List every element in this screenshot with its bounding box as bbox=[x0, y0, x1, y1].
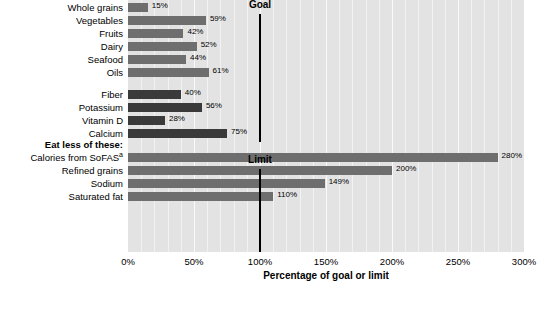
bar-row: 42% bbox=[128, 29, 524, 38]
category-label-calories-from-sofas: Calories from SoFASa bbox=[0, 152, 123, 163]
category-label-saturated-fat: Saturated fat bbox=[0, 191, 123, 202]
bar-dairy bbox=[128, 42, 197, 51]
reference-label-goal: Goal bbox=[249, 0, 271, 10]
bar-row: 110% bbox=[128, 192, 524, 201]
bar-whole-grains bbox=[128, 3, 148, 12]
bar-saturated-fat bbox=[128, 192, 273, 201]
bar-seafood bbox=[128, 55, 186, 64]
bar-fruits bbox=[128, 29, 183, 38]
bar-value-label: 280% bbox=[502, 151, 522, 160]
x-tick-label: 300% bbox=[512, 256, 536, 267]
category-label-refined-grains: Refined grains bbox=[0, 165, 123, 176]
bar-chart: Whole grainsVegetablesFruitsDairySeafood… bbox=[0, 0, 550, 317]
bar-value-label: 75% bbox=[231, 127, 247, 136]
bar-row: 61% bbox=[128, 68, 524, 77]
x-tick-label: 250% bbox=[446, 256, 470, 267]
bar-calories-from-sofas bbox=[128, 153, 498, 162]
reference-line-limit bbox=[259, 169, 260, 252]
bar-row: 149% bbox=[128, 179, 524, 188]
group-header-eat-less: Eat less of these: bbox=[0, 139, 123, 150]
bar-fiber bbox=[128, 90, 181, 99]
bar-row: 200% bbox=[128, 166, 524, 175]
category-label-fruits: Fruits bbox=[0, 28, 123, 39]
category-label-potassium: Potassium bbox=[0, 102, 123, 113]
bar-row: 28% bbox=[128, 116, 524, 125]
x-tick-label: 0% bbox=[121, 256, 135, 267]
bar-value-label: 15% bbox=[152, 1, 168, 10]
category-label-vitamin-d: Vitamin D bbox=[0, 115, 123, 126]
bar-value-label: 110% bbox=[277, 190, 297, 199]
bar-value-label: 28% bbox=[169, 114, 185, 123]
category-label-oils: Oils bbox=[0, 67, 123, 78]
category-label-whole-grains: Whole grains bbox=[0, 2, 123, 13]
reference-line-goal bbox=[259, 14, 260, 142]
bar-value-label: 40% bbox=[185, 88, 201, 97]
bar-row: 15% bbox=[128, 3, 524, 12]
bar-row: 56% bbox=[128, 103, 524, 112]
x-tick-label: 50% bbox=[184, 256, 203, 267]
bar-value-label: 61% bbox=[213, 66, 229, 75]
bar-oils bbox=[128, 68, 209, 77]
footnote-marker: a bbox=[119, 151, 123, 158]
bar-value-label: 149% bbox=[329, 177, 349, 186]
bar-row: 75% bbox=[128, 129, 524, 138]
category-label-fiber: Fiber bbox=[0, 89, 123, 100]
x-axis-title: Percentage of goal or limit bbox=[128, 270, 524, 281]
bar-row: 52% bbox=[128, 42, 524, 51]
bar-row: 40% bbox=[128, 90, 524, 99]
bar-row: 44% bbox=[128, 55, 524, 64]
bar-vitamin-d bbox=[128, 116, 165, 125]
bar-value-label: 56% bbox=[206, 101, 222, 110]
x-tick-label: 100% bbox=[248, 256, 272, 267]
category-label-vegetables: Vegetables bbox=[0, 15, 123, 26]
category-label-seafood: Seafood bbox=[0, 54, 123, 65]
bar-value-label: 59% bbox=[210, 14, 226, 23]
category-label-dairy: Dairy bbox=[0, 41, 123, 52]
bar-row: 59% bbox=[128, 16, 524, 25]
bar-value-label: 44% bbox=[190, 53, 206, 62]
bar-value-label: 200% bbox=[396, 164, 416, 173]
bar-value-label: 42% bbox=[187, 27, 203, 36]
bar-calcium bbox=[128, 129, 227, 138]
x-tick-label: 200% bbox=[380, 256, 404, 267]
x-tick-label: 150% bbox=[314, 256, 338, 267]
reference-label-limit: Limit bbox=[248, 154, 272, 165]
bar-value-label: 52% bbox=[201, 40, 217, 49]
bar-potassium bbox=[128, 103, 202, 112]
bar-row: 280% bbox=[128, 153, 524, 162]
bar-vegetables bbox=[128, 16, 206, 25]
category-label-calcium: Calcium bbox=[0, 128, 123, 139]
bar-sodium bbox=[128, 179, 325, 188]
category-label-sodium: Sodium bbox=[0, 178, 123, 189]
